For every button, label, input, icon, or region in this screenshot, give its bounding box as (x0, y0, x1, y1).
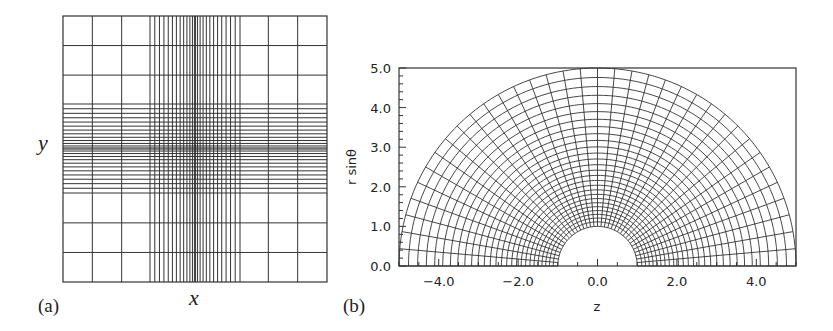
y-tick-label: 3.0 (370, 140, 391, 155)
y-tick-label: 2.0 (370, 180, 391, 195)
polar-radial-line (604, 71, 632, 227)
polar-radial-line (637, 232, 793, 260)
x-tick-label: −4.0 (423, 274, 455, 289)
panel-a-ylabel: y (36, 130, 48, 155)
y-tick-label: 4.0 (370, 101, 391, 116)
panel-a-xlabel: x (188, 285, 199, 310)
polar-radial-line (563, 71, 591, 227)
panel-a-label: (a) (38, 295, 59, 317)
cartesian-grid-lines (63, 16, 327, 282)
figure: y x (a) 0.01.02.03.04.05.0 −4.0−2.00.02.… (0, 0, 833, 331)
x-tick-label: 0.0 (587, 274, 608, 289)
panel-b-label: (b) (343, 295, 365, 317)
polar-grid-lines (399, 68, 796, 266)
x-tick-label: 4.0 (746, 274, 767, 289)
panel-b-xlabel: z (594, 299, 601, 314)
y-tick-label: 5.0 (370, 61, 391, 76)
y-tick-label: 0.0 (370, 259, 391, 274)
polar-radial-line (402, 232, 558, 260)
panel-b-ylabel: r sinθ (344, 149, 359, 185)
x-tick-label: 2.0 (667, 274, 688, 289)
panel-b-polar-grid: 0.01.02.03.04.05.0 −4.0−2.00.02.04.0 r s… (343, 61, 796, 317)
y-tick-labels: 0.01.02.03.04.05.0 (370, 61, 391, 274)
panel-a-cartesian-grid: y x (a) (36, 16, 327, 317)
x-tick-labels: −4.0−2.00.02.04.0 (423, 274, 767, 289)
y-tick-label: 1.0 (370, 219, 391, 234)
x-tick-label: −2.0 (502, 274, 534, 289)
